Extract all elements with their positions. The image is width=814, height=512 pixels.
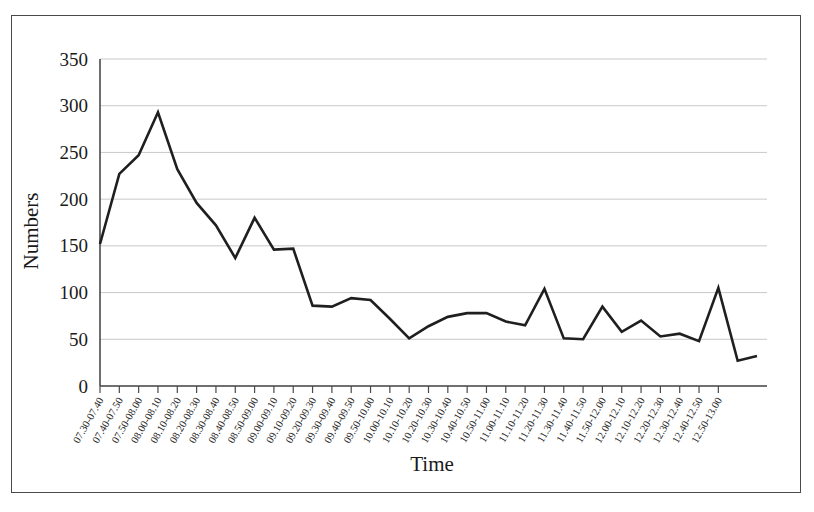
- y-tick-label: 100: [60, 282, 89, 303]
- y-tick-label: 0: [79, 376, 89, 397]
- x-tick-marks-group: [100, 386, 718, 393]
- y-tick-label: 300: [60, 95, 89, 116]
- y-tick-label: 200: [60, 189, 89, 210]
- x-tick-labels-group: 07.30-07.4007.40-07.5007.50-08.0008.00-0…: [71, 396, 724, 445]
- y-tick-label: 50: [69, 329, 88, 350]
- line-chart-svg: 050100150200250300350 07.30-07.4007.40-0…: [12, 16, 802, 494]
- axes-group: [100, 59, 767, 386]
- y-axis-title: Numbers: [19, 193, 43, 270]
- data-series-group: [100, 112, 757, 361]
- x-axis-title: Time: [410, 452, 454, 476]
- chart-plot-area: 050100150200250300350 07.30-07.4007.40-0…: [12, 16, 802, 494]
- y-tick-label: 150: [60, 235, 89, 256]
- chart-figure-frame: 050100150200250300350 07.30-07.4007.40-0…: [11, 15, 801, 493]
- y-tick-label: 250: [60, 142, 89, 163]
- y-tick-labels-group: 050100150200250300350: [60, 49, 89, 397]
- gridlines-group: [100, 59, 767, 386]
- data-series-line: [100, 112, 757, 361]
- y-tick-label: 350: [60, 49, 89, 70]
